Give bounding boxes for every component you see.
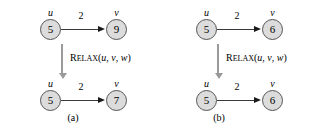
edge-line-before — [61, 29, 101, 30]
relax-operation-label: RELAX(u, v, w) — [70, 53, 131, 63]
relax-name-rest: ELAX — [77, 54, 98, 63]
panel-caption-a: (a) — [58, 113, 88, 123]
edge-weight-after: 2 — [229, 82, 245, 92]
edge-arrowhead-before — [98, 26, 105, 32]
node-v-before: 6 — [262, 19, 283, 40]
edge-arrowhead-before — [254, 26, 261, 32]
edge-arrowhead-after — [254, 97, 261, 103]
node-v-before: 9 — [106, 19, 127, 40]
node-label-v-before: v — [262, 8, 283, 18]
node-v-after: 7 — [106, 90, 127, 111]
edge-line-after — [61, 100, 101, 101]
relax-name-rest: ELAX — [233, 54, 254, 63]
node-label-u-after: u — [196, 79, 217, 89]
node-label-v-before: v — [106, 8, 127, 18]
panel-caption-b: (b) — [204, 113, 234, 123]
node-label-v-after: v — [106, 79, 127, 89]
edge-weight-before: 2 — [73, 11, 89, 21]
node-label-u-before: u — [40, 8, 61, 18]
relax-close-paren: ) — [127, 52, 130, 63]
panel-b: u 5 2 v 6 RELAX(u, v, w) u 5 2 v 6 (b) — [156, 0, 313, 129]
node-label-u-before: u — [196, 8, 217, 18]
relax-arrow-shaft — [217, 44, 219, 74]
relax-arrow-shaft — [61, 44, 63, 74]
panel-a: u 5 2 v 9 RELAX(u, v, w) u 5 2 v 7 (a) — [0, 0, 157, 129]
edge-line-after — [217, 100, 257, 101]
relax-name-initial: R — [226, 52, 233, 63]
relax-name-initial: R — [70, 52, 77, 63]
edge-arrowhead-after — [98, 97, 105, 103]
node-u-after: 5 — [196, 90, 217, 111]
edge-weight-before: 2 — [229, 11, 245, 21]
node-label-v-after: v — [262, 79, 283, 89]
node-u-before: 5 — [196, 19, 217, 40]
relax-close-paren: ) — [283, 52, 286, 63]
edge-line-before — [217, 29, 257, 30]
node-label-u-after: u — [40, 79, 61, 89]
relax-operation-label: RELAX(u, v, w) — [226, 53, 287, 63]
relax-figure: u 5 2 v 9 RELAX(u, v, w) u 5 2 v 7 (a) u… — [0, 0, 313, 129]
node-u-before: 5 — [40, 19, 61, 40]
node-v-after: 6 — [262, 90, 283, 111]
node-u-after: 5 — [40, 90, 61, 111]
edge-weight-after: 2 — [73, 82, 89, 92]
